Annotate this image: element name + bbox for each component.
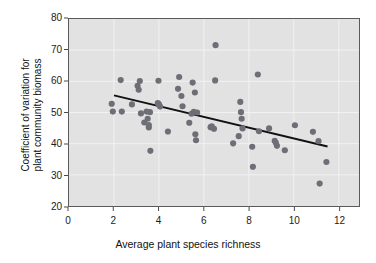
data-point <box>230 140 236 146</box>
data-point <box>310 129 316 135</box>
data-point <box>193 137 199 143</box>
data-point <box>255 71 261 77</box>
data-point <box>109 101 115 107</box>
y-axis-label-line-2: plant community biomass <box>32 20 44 210</box>
data-point <box>239 116 245 122</box>
x-tick-label: 10 <box>289 216 300 226</box>
data-point <box>138 110 144 116</box>
data-point <box>190 80 196 86</box>
x-axis-label: Average plant species richness <box>0 238 376 250</box>
data-point <box>155 78 161 84</box>
data-point <box>292 122 298 128</box>
x-tick-label: 12 <box>334 216 345 226</box>
data-point <box>238 109 244 115</box>
x-tick-label: 4 <box>156 216 162 226</box>
data-point <box>266 125 272 131</box>
data-point <box>146 122 152 128</box>
data-point <box>274 143 280 149</box>
data-point <box>192 89 198 95</box>
plot-area <box>68 18 360 207</box>
x-tick-label: 6 <box>201 216 207 226</box>
data-point <box>237 99 243 105</box>
data-point <box>145 116 151 122</box>
data-point <box>315 138 321 144</box>
data-points-layer <box>69 19 359 206</box>
data-point <box>282 147 288 153</box>
y-axis-label-line-1: Coefficient of variation for <box>20 20 32 210</box>
data-point <box>256 128 262 134</box>
data-point <box>211 126 217 132</box>
data-point <box>110 108 116 114</box>
data-point <box>236 133 242 139</box>
data-point <box>136 87 142 93</box>
x-tick-label: 2 <box>110 216 116 226</box>
data-point <box>119 108 125 114</box>
data-point <box>249 144 255 150</box>
data-point <box>179 103 185 109</box>
data-point <box>212 42 218 48</box>
data-point <box>178 93 184 99</box>
data-point <box>129 101 135 107</box>
data-point <box>118 77 124 83</box>
data-point <box>137 78 143 84</box>
data-point <box>186 120 192 126</box>
data-point <box>165 128 171 134</box>
data-point <box>192 131 198 137</box>
data-point <box>147 109 153 115</box>
x-tick-label: 0 <box>65 216 71 226</box>
data-point <box>147 148 153 154</box>
data-point <box>212 77 218 83</box>
data-point <box>239 125 245 131</box>
y-axis-label: Coefficient of variation for plant commu… <box>20 20 44 210</box>
scatter-plot-figure: 20304050607080024681012 Average plant sp… <box>0 0 376 263</box>
data-point <box>194 109 200 115</box>
data-point <box>317 180 323 186</box>
data-point <box>157 104 163 110</box>
data-point <box>250 164 256 170</box>
data-point <box>176 74 182 80</box>
x-tick-label: 8 <box>246 216 252 226</box>
data-point <box>175 86 181 92</box>
data-point <box>323 159 329 165</box>
